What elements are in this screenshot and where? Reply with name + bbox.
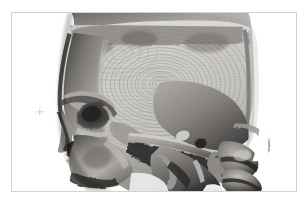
figure-page (0, 0, 308, 201)
figure-caption (11, 194, 297, 201)
ct-skull-volume-rendering[interactable] (12, 13, 296, 191)
render-viewport[interactable] (12, 13, 296, 191)
image-frame (11, 12, 297, 192)
